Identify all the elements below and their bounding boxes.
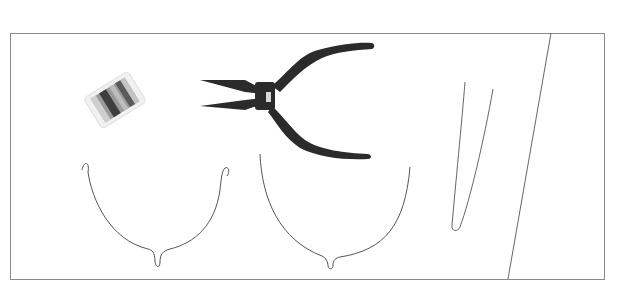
- wire-shape-u-left: [82, 163, 229, 266]
- craft-illustration: [0, 0, 635, 288]
- wire-shape-u-right: [260, 154, 410, 269]
- frame: [11, 34, 605, 280]
- diagonal-line: [508, 33, 551, 279]
- wire-hairpin: [452, 82, 493, 231]
- pliers-icon: [200, 43, 374, 159]
- wire-spool-icon: [83, 71, 146, 129]
